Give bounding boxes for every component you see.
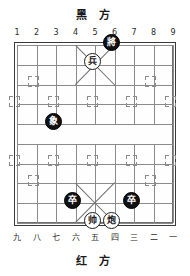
bottom-coord-7: 三 [127,232,141,244]
bottom-coord-1: 九 [10,232,24,244]
red-cannon[interactable]: 炮 [103,212,120,229]
position-marker-5-6 [87,155,98,166]
top-coord-3: 3 [49,27,63,39]
bottom-coord-4: 六 [69,232,83,244]
position-marker-3-3 [48,96,59,107]
black-side-title: 黑 方 [0,6,190,22]
red-marshal[interactable]: 帅 [84,212,101,229]
position-marker-3-6 [48,155,59,166]
position-marker-9-6 [165,155,176,166]
top-coord-9: 9 [166,27,180,39]
bottom-coordinate-row: 九八七六五四三二一 [0,232,190,244]
piece-label: 卒 [127,196,136,205]
piece-label: 將 [107,38,116,47]
position-marker-9-3 [165,96,176,107]
grid-vline-bottom-6 [115,144,116,223]
grid-vline-top-3 [56,45,57,124]
position-marker-1-6 [9,155,20,166]
top-coord-2: 2 [30,27,44,39]
position-marker-2-2 [28,76,39,87]
board-grid[interactable]: 將兵象卒卒帅炮 [14,42,176,226]
top-coord-4: 4 [69,27,83,39]
top-coord-8: 8 [147,27,161,39]
red-soldier-palace[interactable]: 兵 [84,53,101,70]
bottom-coord-5: 五 [88,232,102,244]
position-marker-2-7 [28,175,39,186]
position-marker-8-7 [145,175,156,186]
piece-label: 兵 [88,57,97,66]
bottom-coord-9: 一 [166,232,180,244]
top-coord-1: 1 [10,27,24,39]
bottom-coord-8: 二 [147,232,161,244]
position-marker-7-6 [126,155,137,166]
xiangqi-board-figure: 黑 方 123456789 將兵象卒卒帅炮 九八七六五四三二一 红 方 [0,0,190,276]
grid-vline-top-7 [134,45,135,124]
position-marker-7-3 [126,96,137,107]
position-marker-1-3 [9,96,20,107]
piece-label: 卒 [68,196,77,205]
black-pawn-left[interactable]: 卒 [64,192,81,209]
top-coord-5: 5 [88,27,102,39]
bottom-coord-2: 八 [30,232,44,244]
grid-vline-9 [173,45,174,223]
grid-vline-1 [17,45,18,223]
bottom-coord-6: 四 [108,232,122,244]
piece-label: 炮 [107,216,116,225]
piece-label: 帅 [88,216,97,225]
piece-label: 象 [49,117,58,126]
red-side-title: 红 方 [0,252,190,268]
top-coord-7: 7 [127,27,141,39]
top-coordinate-row: 123456789 [0,27,190,39]
grid-hline-4 [17,124,173,125]
position-marker-8-2 [145,76,156,87]
bottom-coord-3: 七 [49,232,63,244]
position-marker-5-3 [87,96,98,107]
grid-lines [17,45,173,223]
black-elephant[interactable]: 象 [45,113,62,130]
black-general[interactable]: 將 [103,34,120,51]
black-pawn-right[interactable]: 卒 [123,192,140,209]
